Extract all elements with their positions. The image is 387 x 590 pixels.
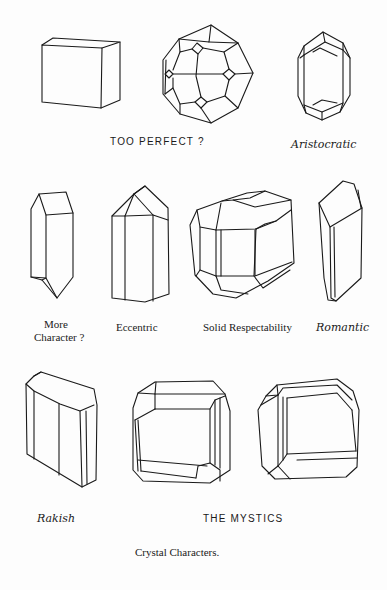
- romantic-label: Romantic: [316, 322, 369, 333]
- eccentric-crystal-drawing: [112, 186, 169, 302]
- illustration-page: TOO PERFECT ? Aristocratic More Characte…: [0, 0, 387, 590]
- polyhedron-crystal-drawing: [163, 25, 253, 123]
- crystal-drawings: [0, 0, 387, 590]
- solid-respectability-crystal-drawing: [190, 191, 294, 298]
- the-mystics-label: THE MYSTICS: [203, 514, 283, 524]
- more-character-label-line1: More: [44, 319, 68, 330]
- too-perfect-label: TOO PERFECT ?: [110, 137, 205, 147]
- cube-crystal-drawing: [42, 38, 120, 108]
- more-character-label-line2: Character ?: [34, 332, 84, 343]
- aristocratic-label: Aristocratic: [291, 139, 356, 150]
- romantic-crystal-drawing: [319, 181, 362, 301]
- rakish-label: Rakish: [37, 513, 75, 524]
- aristocratic-crystal-drawing: [298, 32, 350, 120]
- eccentric-label: Eccentric: [116, 322, 158, 333]
- rakish-crystal-drawing: [26, 372, 97, 487]
- more-character-crystal-drawing: [31, 192, 73, 298]
- crystal-characters-caption: Crystal Characters.: [135, 547, 219, 558]
- mystic-crystal-drawing-2: [258, 379, 359, 479]
- mystic-crystal-drawing-1: [133, 381, 230, 483]
- solid-respectability-label: Solid Respectability: [203, 322, 292, 333]
